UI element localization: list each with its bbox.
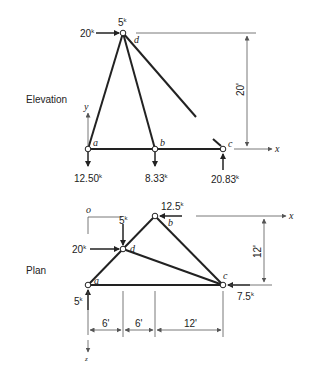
label-d: d (134, 34, 140, 45)
load-5k-a-label: 5k (74, 296, 84, 307)
y-axis-label: y (83, 101, 89, 112)
plan-z-axis-label: z (84, 355, 88, 363)
dim-12ft-vertical-label: 12' (252, 245, 263, 258)
label-a: a (93, 137, 98, 148)
plan-label-c: c (223, 270, 228, 281)
dim-20ft-label: 20' (235, 83, 246, 96)
dim-6ft-2-label: 6' (135, 318, 143, 329)
load-5k-d-label: 5k (119, 215, 129, 226)
label-c: c (228, 138, 233, 149)
reaction-b-label: 8.33k (145, 173, 168, 184)
plan-x-axis-label: x (288, 210, 294, 221)
member-ad (88, 33, 123, 149)
truss-diagram: Elevation d a b c 20k 5k 12.50k 8.33k 20… (0, 0, 310, 373)
reaction-a-label: 12.50k (74, 173, 103, 184)
plan-node-d (120, 246, 126, 252)
load-20k-d-label: 20k (72, 244, 87, 255)
elevation-view: Elevation d a b c 20k 5k 12.50k 8.33k 20… (26, 17, 280, 185)
load-12-5k-label: 12.5k (161, 201, 184, 212)
node-d (120, 30, 126, 36)
label-o: o (86, 204, 91, 215)
node-b (152, 146, 158, 152)
load-5k-label: 5k (118, 17, 128, 28)
load-20k-label: 20k (80, 28, 95, 39)
plan-node-c (220, 282, 226, 288)
member-dc-stub (213, 139, 221, 146)
plan-label-a: a (94, 275, 99, 286)
plan-node-a (85, 282, 91, 288)
plan-node-b (152, 213, 158, 219)
reaction-c-label: 20.83k (211, 174, 240, 185)
dim-6ft-1-label: 6' (102, 318, 110, 329)
elevation-title: Elevation (26, 94, 67, 105)
plan-label-b: b (168, 217, 173, 228)
node-c (220, 146, 226, 152)
plan-view: Plan o b d a c 12.5k 5k 20k 5k 7.5k x (26, 201, 294, 363)
member-dc-plan (123, 249, 223, 285)
x-axis-label: x (274, 143, 280, 154)
origin-bracket (88, 217, 122, 234)
plan-title: Plan (26, 265, 46, 276)
label-b: b (160, 137, 165, 148)
member-bc-plan (155, 216, 223, 285)
dim-12ft-label: 12' (184, 318, 197, 329)
node-a (85, 146, 91, 152)
load-7-5k-label: 7.5k (237, 291, 255, 302)
